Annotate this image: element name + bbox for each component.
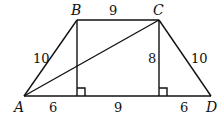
length-label-bottom-middle: 9: [114, 100, 122, 115]
point-label-a: A: [12, 99, 24, 115]
point-label-b: B: [70, 2, 81, 18]
length-label-ab: 10: [33, 51, 50, 66]
right-angle-mark-left: [77, 88, 85, 96]
length-label-bottom-left: 6: [49, 100, 57, 115]
length-label-bottom-right: 6: [180, 100, 188, 115]
length-label-cd: 10: [191, 51, 208, 66]
right-angle-mark-right: [159, 88, 167, 96]
length-label-height: 8: [148, 51, 156, 66]
length-label-bc: 9: [109, 3, 117, 18]
side-ab: [24, 20, 77, 96]
trapezoid-diagram: B C A D 9 10 10 8 6 9 6: [0, 0, 224, 118]
point-label-c: C: [153, 2, 164, 18]
point-label-d: D: [205, 99, 217, 115]
